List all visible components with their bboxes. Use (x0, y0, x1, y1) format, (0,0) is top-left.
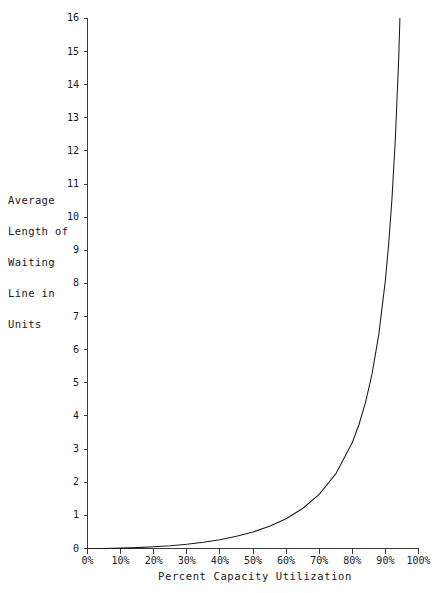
y-tick-label: 1 (45, 510, 79, 520)
y-axis-tick-marks (84, 18, 88, 548)
chart-root: ····························· (0, 0, 441, 593)
x-axis-tick-marks (88, 549, 419, 554)
queue-length-curve (88, 18, 400, 548)
axis-lines (88, 18, 419, 549)
y-tick-label: 8 (45, 278, 79, 288)
y-tick-label: 5 (45, 378, 79, 388)
x-axis-title: Percent Capacity Utilization (90, 570, 420, 582)
y-tick-label: 15 (45, 47, 79, 57)
y-tick-label: 14 (45, 80, 79, 90)
x-tick-label: 100% (397, 556, 441, 566)
y-tick-label: 0 (45, 544, 79, 554)
y-tick-label: 9 (45, 245, 79, 255)
y-tick-label: 13 (45, 113, 79, 123)
y-tick-label: 11 (45, 179, 79, 189)
y-tick-label: 2 (45, 477, 79, 487)
y-tick-label: 3 (45, 444, 79, 454)
y-tick-label: 4 (45, 411, 79, 421)
y-tick-label: 6 (45, 345, 79, 355)
y-tick-label: 16 (45, 13, 79, 23)
y-tick-label: 12 (45, 146, 79, 156)
y-tick-label: 10 (45, 212, 79, 222)
y-tick-label: 7 (45, 312, 79, 322)
